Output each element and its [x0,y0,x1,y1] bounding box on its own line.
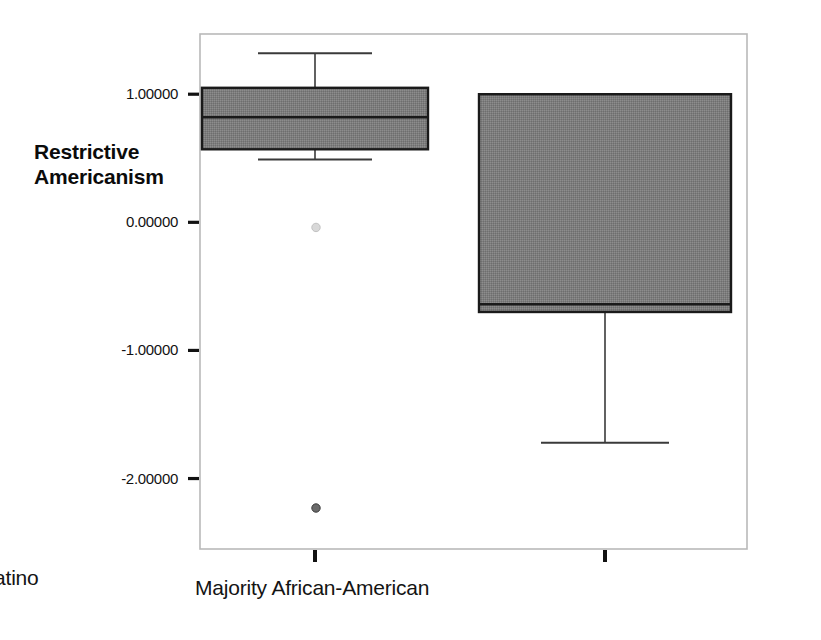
outlier-point[interactable] [312,223,320,231]
y-axis-tick-label: -1.00000 [92,341,178,358]
y-axis-tick-label: 1.00000 [92,85,178,102]
y-axis-tick-label: 0.00000 [92,213,178,230]
x-axis-tick-label: Majority Latino [0,566,39,590]
outlier-point[interactable] [312,504,320,512]
y-axis-tick-label: -2.00000 [92,470,178,487]
boxplot-figure: Restrictive Americanism 1.000000.00000-1… [0,0,821,640]
x-axis-tick-label: Majority African-American [195,576,429,600]
box-majority-african-american[interactable] [479,94,731,312]
